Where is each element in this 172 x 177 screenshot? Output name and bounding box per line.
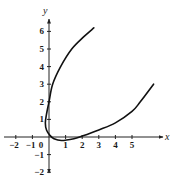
x-tick-label: −2 xyxy=(9,140,19,150)
y-tick-label: 6 xyxy=(40,26,45,36)
x-tick-label: 2 xyxy=(80,140,85,150)
y-tick-label: 4 xyxy=(40,62,45,72)
y-tick-label: 5 xyxy=(40,44,45,54)
x-axis-label: x xyxy=(164,131,170,142)
y-tick-label: 3 xyxy=(40,79,45,89)
y-tick-label: −1 xyxy=(34,150,44,160)
y-tick-label: 2 xyxy=(40,97,45,107)
x-tick-label: −1 xyxy=(26,140,36,150)
axes: −2−1012345 −2−1123456 x y xyxy=(4,5,170,177)
parametric-curve-chart: −2−1012345 −2−1123456 x y xyxy=(0,0,172,177)
y-tick-label: −2 xyxy=(34,167,44,177)
y-tick-label: 1 xyxy=(40,114,45,124)
y-axis-label: y xyxy=(42,5,48,16)
x-tick-label: 3 xyxy=(97,140,102,150)
x-tick-label: 5 xyxy=(130,140,135,150)
curve-line xyxy=(45,28,153,141)
x-tick-label: 4 xyxy=(113,140,118,150)
x-tick-label: 1 xyxy=(63,140,68,150)
x-tick-label: 0 xyxy=(39,140,44,150)
